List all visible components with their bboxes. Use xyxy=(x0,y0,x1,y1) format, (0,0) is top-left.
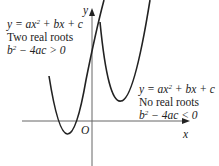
quadratic-roots-diagram: y x O y = ax2 + bx + c Two real roots b2… xyxy=(0,0,219,166)
disc-part: − 4ac < 0 xyxy=(148,109,197,121)
y-axis-label: y xyxy=(83,4,88,16)
origin-label: O xyxy=(81,124,89,136)
x-axis-label: x xyxy=(183,128,188,140)
right-discriminant: b2 − 4ac < 0 xyxy=(139,109,198,121)
eq-part: y = ax xyxy=(7,18,36,30)
eq-part: y = ax xyxy=(139,83,168,95)
right-equation: y = ax2 + bx + c xyxy=(139,83,215,95)
eq-part: + bx + c xyxy=(172,83,215,95)
left-equation: y = ax2 + bx + c xyxy=(7,18,83,30)
disc-part: − 4ac > 0 xyxy=(16,44,65,56)
left-description: Two real roots xyxy=(7,31,73,43)
left-discriminant: b2 − 4ac > 0 xyxy=(7,44,66,56)
right-description: No real roots xyxy=(139,96,199,108)
eq-part: + bx + c xyxy=(40,18,83,30)
y-axis-arrow-icon xyxy=(89,8,95,16)
